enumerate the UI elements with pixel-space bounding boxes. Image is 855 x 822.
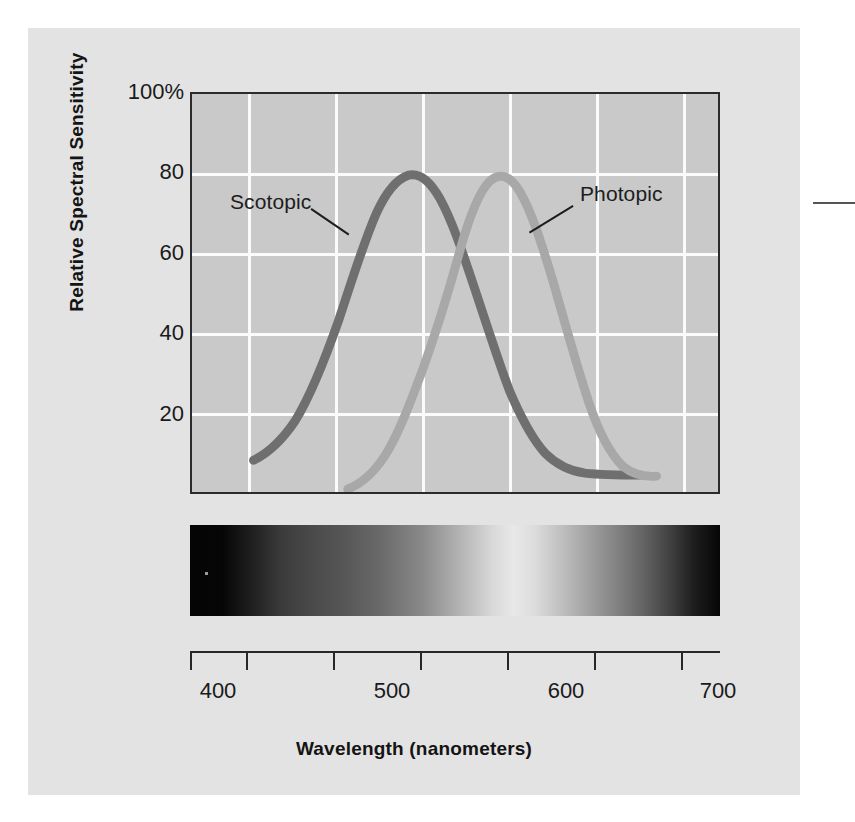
y-axis-tick-labels: 100% 80 60 40 20 [88,92,184,494]
spectrum-speck [205,572,208,575]
x-axis-tick [333,651,335,670]
page-edge-rule [813,202,855,204]
plot-area: Scotopic Photopic [190,92,720,494]
x-axis-tick [681,651,683,670]
y-tick-label: 80 [160,159,184,185]
x-tick-label: 400 [200,678,237,704]
x-tick-label: 700 [700,678,737,704]
x-tick-label: 600 [548,678,585,704]
x-axis-tick-labels: 400 500 600 700 [190,678,720,712]
y-tick-label: 40 [160,320,184,346]
leader-line-scotopic [311,209,349,235]
y-tick-label: 100% [128,79,184,105]
leader-line-photopic [529,206,573,233]
y-axis-title: Relative Spectral Sensitivity [66,32,88,332]
annotation-label-scotopic: Scotopic [230,190,311,214]
x-axis-tick [420,651,422,670]
annotation-label-photopic: Photopic [580,182,663,206]
x-axis-tick [594,651,596,670]
x-axis-tick [246,651,248,670]
x-axis-rule [190,651,720,653]
annotation-leader-lines [192,94,718,492]
figure-panel: 100% 80 60 40 20 Relative Spectral Sensi… [28,28,800,795]
plot-inner: Scotopic Photopic [192,94,718,492]
x-tick-label: 500 [374,678,411,704]
y-tick-label: 20 [160,401,184,427]
x-axis-scale [190,651,720,673]
x-axis-title: Wavelength (nanometers) [28,738,800,760]
x-axis-tick [190,651,192,670]
x-axis-tick [507,651,509,670]
visible-spectrum-bar [190,525,720,616]
y-tick-label: 60 [160,240,184,266]
